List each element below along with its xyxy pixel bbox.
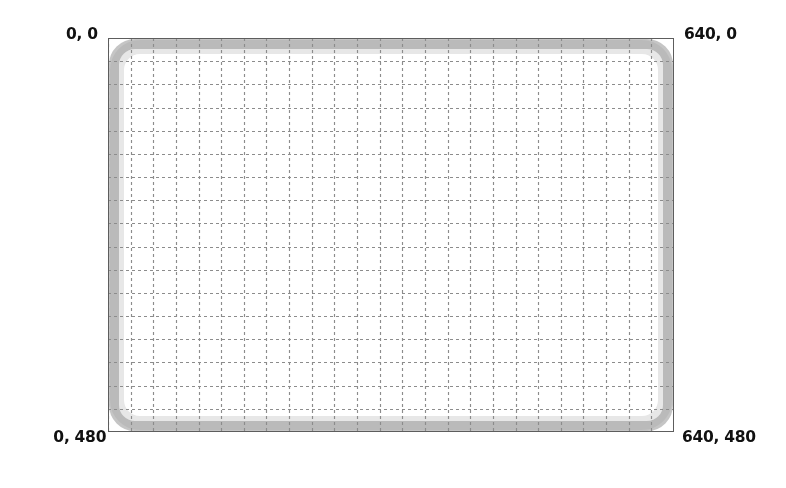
frame-bezel-outer-glow [110, 40, 672, 430]
coord-label-top-left: 0, 0 [66, 26, 98, 43]
frame-outline [108, 38, 674, 432]
screen-frame [108, 38, 674, 432]
coord-label-bottom-right: 640, 480 [682, 429, 756, 446]
coordinate-grid [108, 38, 674, 432]
screen-coordinate-reference: 0, 0 640, 0 0, 480 640, 480 [0, 0, 786, 488]
coordinate-grid-svg [108, 38, 674, 432]
coord-label-top-right: 640, 0 [684, 26, 737, 43]
frame-bezel [109, 39, 673, 431]
coord-label-bottom-left: 0, 480 [53, 429, 106, 446]
